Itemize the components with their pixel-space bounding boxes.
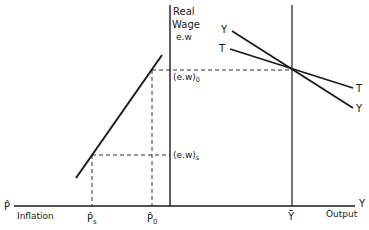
yy-label-left: Y [220,24,228,35]
p0-tick-label: P̂0 [147,212,158,226]
output-label: Output [326,209,358,219]
yy-label-right: Y [355,103,363,114]
ew0-label: (e.w)0 [173,72,200,84]
diagram-canvas: Real Wage e.w (e.w)0 (e.w)s Y T T Y P̂ I… [0,0,369,230]
y-axis-label-wage: Wage [172,19,200,30]
y-axis-end-symbol: Y [358,198,366,209]
p-hat-axis-symbol: P̂ [4,200,10,212]
diagram-svg: Real Wage e.w (e.w)0 (e.w)s Y T T Y P̂ I… [0,0,369,230]
tt-label-right: T [355,83,363,94]
y-axis-label-ew: e.w [176,32,192,42]
inflation-label: Inflation [17,211,54,221]
wage-inflation-line [76,55,162,178]
y-bar-tick-label: Ȳ [287,210,295,222]
ps-tick-label: P̂s [87,212,97,226]
tt-label-left: T [218,43,226,54]
ews-label: (e.w)s [173,150,200,162]
y-axis-label-real: Real [173,6,195,17]
